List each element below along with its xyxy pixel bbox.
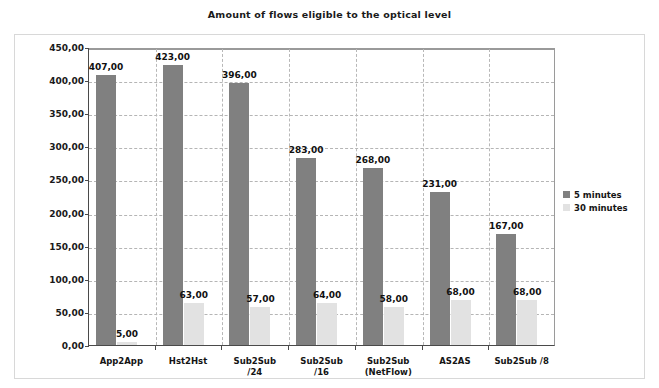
y-axis-tick-label: 450,00 [30, 43, 84, 53]
y-axis-tick-mark [85, 280, 89, 281]
legend-item-label: 30 minutes [574, 203, 628, 213]
bar-value-label: 231,00 [410, 179, 470, 189]
y-axis-tick-mark [85, 313, 89, 314]
chart-container: Amount of flows eligible to the optical … [0, 0, 659, 388]
y-axis-tick-label: 100,00 [30, 275, 84, 285]
bar[interactable] [184, 303, 204, 345]
category-label-line: Sub2Sub /8 [476, 356, 568, 367]
chart-legend: 5 minutes30 minutes [563, 188, 628, 214]
bar-value-label: 68,00 [497, 287, 557, 297]
bar-value-label: 423,00 [143, 52, 203, 62]
bar[interactable] [430, 192, 450, 345]
y-axis-tick-label: 50,00 [30, 308, 84, 318]
x-axis-tick-mark [155, 346, 156, 350]
bar[interactable] [317, 303, 337, 345]
bar-value-label: 283,00 [276, 145, 336, 155]
legend-swatch-icon [563, 191, 570, 198]
x-axis-tick-mark [422, 346, 423, 350]
legend-swatch-icon [563, 204, 570, 211]
bar-value-label: 5,00 [97, 329, 157, 339]
y-axis-tick-label: 150,00 [30, 242, 84, 252]
x-axis-tick-mark [221, 346, 222, 350]
y-axis-tick-label: 400,00 [30, 76, 84, 86]
y-axis-tick-mark [85, 214, 89, 215]
y-axis-tick-mark [85, 81, 89, 82]
bar[interactable] [96, 75, 116, 345]
bar-value-label: 167,00 [476, 221, 536, 231]
bar-value-label: 407,00 [76, 62, 136, 72]
legend-item[interactable]: 5 minutes [563, 188, 628, 201]
y-axis-tick-mark [85, 114, 89, 115]
bar[interactable] [229, 83, 249, 345]
bar[interactable] [250, 307, 270, 345]
plot-area: 407,005,00423,0063,00396,0057,00283,0064… [88, 48, 555, 346]
x-axis-tick-mark [355, 346, 356, 350]
bar-group: 283,0064,00 [289, 49, 356, 345]
category-label-line: (NetFlow) [342, 367, 434, 378]
x-axis-category-label: Sub2Sub /8 [476, 356, 568, 367]
y-axis-tick-labels: 0,0050,00100,00150,00200,00250,00300,003… [26, 48, 84, 346]
bar[interactable] [451, 300, 471, 345]
bar-group: 167,0068,00 [489, 49, 556, 345]
bar-value-label: 68,00 [431, 287, 491, 297]
x-axis-tick-mark [288, 346, 289, 350]
bar-group: 407,005,00 [89, 49, 156, 345]
y-axis-tick-mark [85, 48, 89, 49]
bar-value-label: 268,00 [343, 155, 403, 165]
y-axis-tick-mark [85, 247, 89, 248]
bar-group: 423,0063,00 [156, 49, 223, 345]
y-axis-tick-label: 0,00 [30, 341, 84, 351]
x-axis-tick-mark [488, 346, 489, 350]
y-axis-tick-label: 350,00 [30, 109, 84, 119]
y-axis-tick-label: 200,00 [30, 209, 84, 219]
bar-value-label: 396,00 [209, 70, 269, 80]
bar[interactable] [163, 65, 183, 345]
y-axis-tick-mark [85, 346, 89, 347]
bar-group: 231,0068,00 [423, 49, 490, 345]
bar-value-label: 64,00 [297, 290, 357, 300]
bar-group: 396,0057,00 [222, 49, 289, 345]
bar-value-label: 57,00 [230, 294, 290, 304]
legend-item[interactable]: 30 minutes [563, 201, 628, 214]
bar[interactable] [517, 300, 537, 345]
chart-title: Amount of flows eligible to the optical … [0, 9, 659, 20]
bar[interactable] [363, 168, 383, 345]
legend-item-label: 5 minutes [574, 190, 622, 200]
y-axis-tick-mark [85, 147, 89, 148]
y-axis-tick-label: 250,00 [30, 175, 84, 185]
bar-group: 268,0058,00 [356, 49, 423, 345]
y-axis-tick-mark [85, 180, 89, 181]
bar-value-label: 58,00 [364, 294, 424, 304]
bar[interactable] [296, 158, 316, 345]
y-axis-tick-label: 300,00 [30, 142, 84, 152]
bar-value-label: 63,00 [164, 290, 224, 300]
bar[interactable] [117, 342, 137, 345]
bar[interactable] [384, 307, 404, 345]
